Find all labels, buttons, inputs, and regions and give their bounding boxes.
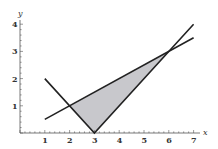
x-tick-label: 1 [42,135,48,145]
y-tick-label: 1 [12,101,18,111]
x-tick-label: 7 [191,135,197,145]
x-tick-label: 5 [142,135,148,145]
tick-labels: 12345671234 [12,19,197,145]
plot-lines [45,24,194,133]
x-tick-label: 3 [92,135,98,145]
x-tick-label: 6 [166,135,172,145]
y-tick-label: 2 [12,74,18,84]
x-axis-label: x [203,128,208,137]
half-x-line [45,38,194,120]
shaded-triangle [70,51,169,133]
x-tick-label: 2 [67,135,73,145]
y-tick-label: 4 [12,19,18,29]
y-tick-label: 3 [12,46,18,56]
x-tick-label: 4 [117,135,123,145]
shaded-region [70,51,169,133]
y-axis-label: y [17,9,23,18]
chart-canvas: 12345671234 x y [0,0,218,149]
